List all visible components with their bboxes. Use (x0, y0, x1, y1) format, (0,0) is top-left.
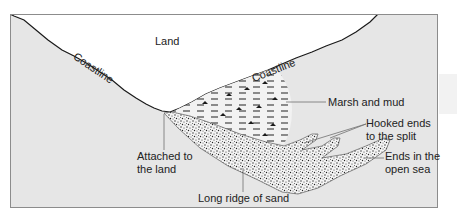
land-label: Land (155, 35, 179, 48)
open-sea-label-1: Ends in the (385, 150, 440, 163)
hooked-ends-label-1: Hooked ends (366, 117, 431, 130)
open-sea-label-2: open sea (385, 163, 430, 176)
spit-diagram (0, 0, 457, 221)
hooked-ends-label-2: to the split (366, 130, 416, 143)
marsh-label: Marsh and mud (328, 96, 404, 109)
attached-label-2: the land (137, 163, 176, 176)
ridge-label: Long ridge of sand (198, 192, 289, 205)
attached-label-1: Attached to (137, 150, 193, 163)
